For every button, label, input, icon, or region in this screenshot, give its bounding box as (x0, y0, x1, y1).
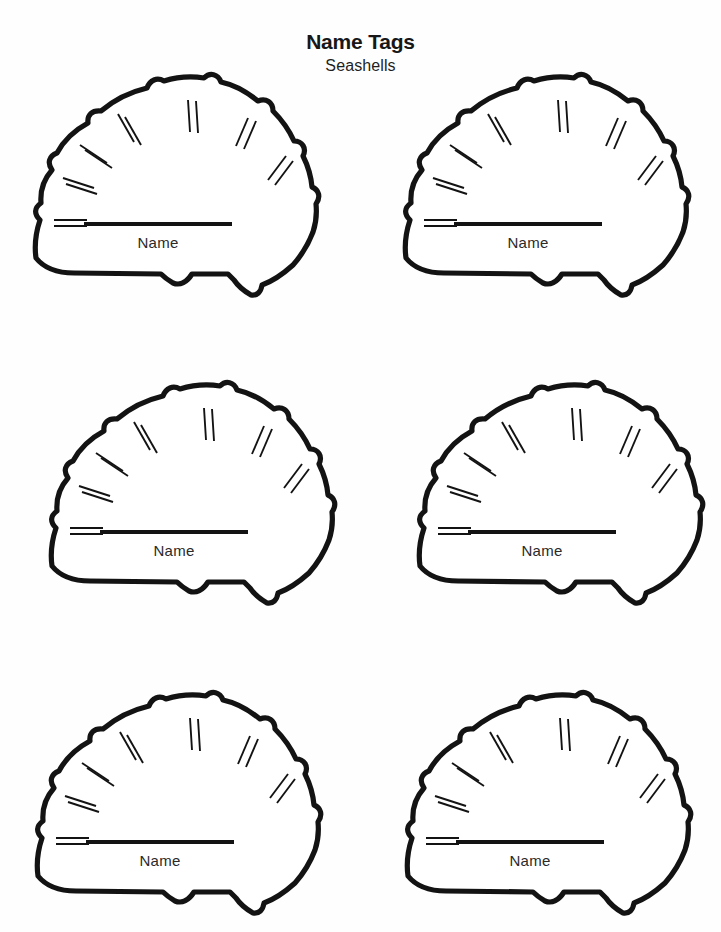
seashell-icon: Name (14, 62, 334, 302)
name-tag[interactable]: Name (30, 370, 350, 610)
name-tag[interactable]: Name (384, 62, 704, 302)
seashell-icon: Name (398, 370, 718, 610)
seashell-icon: Name (386, 680, 706, 920)
seashell-icon: Name (384, 62, 704, 302)
name-label: Name (139, 852, 180, 869)
name-label: Name (509, 852, 550, 869)
name-label: Name (507, 234, 548, 251)
name-tag[interactable]: Name (386, 680, 706, 920)
page-title: Name Tags (0, 30, 721, 54)
name-tag[interactable]: Name (14, 62, 334, 302)
name-label: Name (153, 542, 194, 559)
worksheet-page: Name Tags Seashells Name Name Name Name … (0, 0, 721, 932)
tag-row: Name Name (0, 370, 721, 610)
tag-row: Name Name (0, 62, 721, 302)
name-tag[interactable]: Name (16, 680, 336, 920)
name-label: Name (521, 542, 562, 559)
tag-row: Name Name (0, 680, 721, 920)
name-tag[interactable]: Name (398, 370, 718, 610)
name-tag-grid: Name Name Name Name Name Name (0, 62, 721, 932)
name-label: Name (137, 234, 178, 251)
seashell-icon: Name (16, 680, 336, 920)
seashell-icon: Name (30, 370, 350, 610)
